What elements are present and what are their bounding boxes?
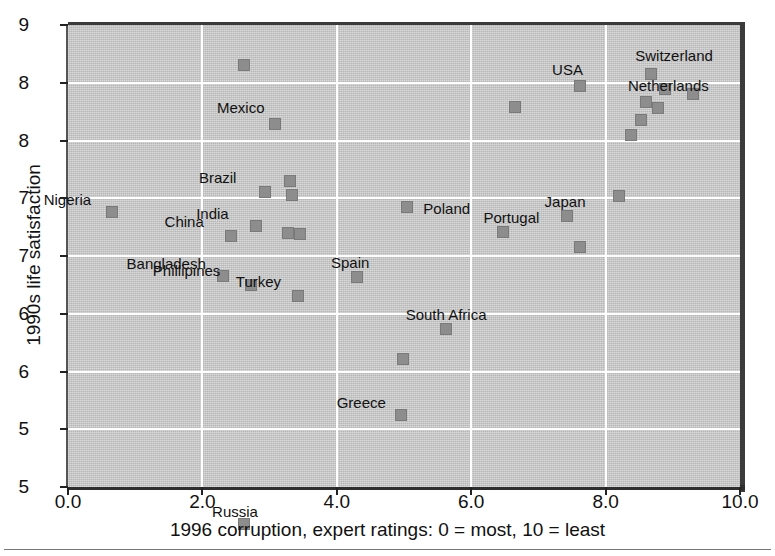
data-point-label: South Africa: [406, 307, 487, 322]
data-point-label: Turkey: [236, 274, 281, 289]
y-axis-tick-label: 9: [0, 15, 29, 34]
data-point: [225, 230, 237, 242]
page-rule: [4, 549, 771, 550]
data-point: [292, 290, 304, 302]
data-point: [294, 228, 306, 240]
gridline-horizontal: [68, 197, 740, 199]
x-axis-tick-mark: [739, 487, 741, 495]
x-axis-tick-mark: [605, 487, 607, 495]
scatter-chart-figure: NigeriaBangladeshChinaRussiaPhillipinesI…: [0, 0, 775, 556]
gridline-horizontal: [68, 428, 740, 430]
data-point-label: Netherlands: [628, 78, 709, 93]
data-point: [561, 210, 573, 222]
y-axis-title: 1990s life satisfaction: [23, 35, 45, 475]
plot-frame-right-edge: [740, 22, 745, 492]
y-axis-tick-mark: [60, 140, 68, 142]
data-point: [250, 220, 262, 232]
data-point: [613, 190, 625, 202]
data-point: [440, 323, 452, 335]
data-point-label: Portugal: [483, 210, 539, 225]
y-axis-tick-mark: [60, 255, 68, 257]
data-point: [106, 206, 118, 218]
y-axis-tick-mark: [60, 371, 68, 373]
data-point: [284, 175, 296, 187]
y-axis-tick-label: 5: [0, 477, 29, 496]
data-point-label: Brazil: [199, 170, 237, 185]
data-point-label: Greece: [337, 395, 386, 410]
y-axis-tick-mark: [60, 24, 68, 26]
data-point-label: USA: [552, 62, 583, 77]
data-point-label: Japan: [545, 194, 586, 209]
data-point: [652, 102, 664, 114]
gridline-horizontal: [68, 371, 740, 373]
x-axis-tick-mark: [67, 487, 69, 495]
data-point-label: Mexico: [217, 100, 265, 115]
y-axis-tick-mark: [60, 197, 68, 199]
data-point: [497, 226, 509, 238]
data-point: [397, 353, 409, 365]
data-point-label: Poland: [423, 201, 470, 216]
data-point: [401, 201, 413, 213]
data-point: [509, 101, 521, 113]
data-point-label: Switzerland: [635, 48, 713, 63]
data-point-label: Phillipines: [153, 263, 221, 278]
x-axis-tick-mark: [470, 487, 472, 495]
x-axis-title: 1996 corruption, expert ratings: 0 = mos…: [0, 519, 775, 541]
data-point-label: Nigeria: [44, 192, 92, 207]
data-point: [574, 241, 586, 253]
data-point: [286, 189, 298, 201]
data-point: [574, 80, 586, 92]
data-point: [640, 96, 652, 108]
data-point: [395, 409, 407, 421]
data-point: [238, 59, 250, 71]
gridline-horizontal: [68, 140, 740, 142]
y-axis-tick-mark: [60, 82, 68, 84]
data-point-label: India: [196, 206, 229, 221]
data-point: [269, 118, 281, 130]
x-axis-tick-mark: [336, 487, 338, 495]
x-axis-tick-mark: [201, 487, 203, 495]
data-point: [635, 114, 647, 126]
data-point: [259, 186, 271, 198]
gridline-horizontal: [68, 313, 740, 315]
data-point: [625, 129, 637, 141]
y-axis-tick-mark: [60, 313, 68, 315]
data-point: [351, 271, 363, 283]
data-point-label: Spain: [331, 255, 369, 270]
data-point: [282, 227, 294, 239]
y-axis-tick-mark: [60, 428, 68, 430]
plot-area: NigeriaBangladeshChinaRussiaPhillipinesI…: [68, 25, 740, 487]
